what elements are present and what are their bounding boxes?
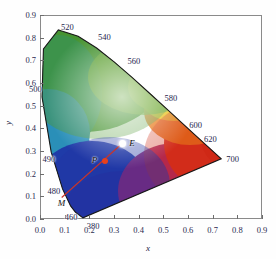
x-axis-tick-label: 0.5 — [158, 225, 169, 235]
y-axis-tick-label: 0.7 — [14, 55, 36, 65]
wavelength-label-540: 540 — [98, 32, 111, 42]
wavelength-label-460: 460 — [65, 212, 78, 222]
wavelength-label-490: 490 — [42, 154, 55, 164]
wavelength-label-480: 480 — [47, 186, 60, 196]
point-p-label: P — [92, 155, 98, 165]
point-m-label: M — [58, 198, 66, 208]
x-axis-tick-label: 0.8 — [232, 225, 243, 235]
x-axis-tick-label: 0.6 — [183, 225, 194, 235]
y-axis-tick-label: 0.3 — [14, 146, 36, 156]
x-axis-tick — [163, 215, 164, 219]
x-axis-tick — [188, 215, 189, 219]
wavelength-label-520: 520 — [61, 22, 74, 32]
cie-gamut-plot — [40, 15, 262, 219]
y-axis-tick — [40, 128, 44, 129]
wavelength-label-600: 600 — [189, 120, 202, 130]
x-axis-title: x — [146, 243, 150, 253]
y-axis-tick — [40, 60, 44, 61]
x-axis-tick-label: 0.4 — [133, 225, 144, 235]
x-axis-tick-label: 0.3 — [109, 225, 120, 235]
x-axis-tick-label: 0.7 — [207, 225, 218, 235]
y-axis-tick-label: 0.2 — [14, 169, 36, 179]
wavelength-label-380: 380 — [87, 221, 100, 231]
y-axis-tick-label: 0.9 — [14, 10, 36, 20]
x-axis-tick — [262, 215, 263, 219]
y-axis-tick — [40, 219, 44, 220]
x-axis-tick — [237, 215, 238, 219]
y-axis-tick-label: 0.4 — [14, 123, 36, 133]
y-axis-tick — [40, 106, 44, 107]
y-axis-title: y — [3, 121, 13, 125]
chromaticity-diagram-figure: 0.00.10.20.30.40.50.60.70.80.9 0.00.10.2… — [0, 0, 276, 259]
wavelength-label-700: 700 — [226, 154, 239, 164]
x-axis-tick — [89, 215, 90, 219]
y-axis-tick — [40, 151, 44, 152]
y-axis-tick-label: 0.0 — [14, 214, 36, 224]
x-axis-tick — [213, 215, 214, 219]
y-axis-tick-label: 0.8 — [14, 33, 36, 43]
point-p-marker — [102, 158, 108, 164]
y-axis-tick — [40, 174, 44, 175]
x-axis-tick-label: 0.0 — [35, 225, 46, 235]
wavelength-label-580: 580 — [165, 93, 178, 103]
y-axis-tick-label: 0.1 — [14, 191, 36, 201]
point-e-label: E — [129, 138, 135, 148]
x-axis-tick — [114, 215, 115, 219]
wavelength-label-500: 500 — [29, 84, 42, 94]
wavelength-label-620: 620 — [204, 134, 217, 144]
y-axis-tick — [40, 38, 44, 39]
wavelength-label-560: 560 — [128, 56, 141, 66]
x-axis-tick-label: 0.1 — [59, 225, 70, 235]
x-axis-tick — [139, 215, 140, 219]
y-axis-tick-label: 0.5 — [14, 101, 36, 111]
y-axis-tick — [40, 15, 44, 16]
y-axis-tick — [40, 196, 44, 197]
x-axis-tick-label: 0.9 — [257, 225, 268, 235]
point-e-marker — [119, 140, 126, 147]
